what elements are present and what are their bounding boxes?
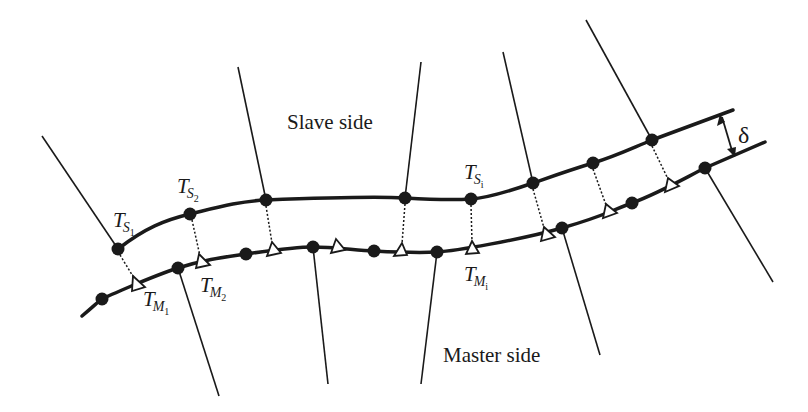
slave-side-label: Slave side [287, 110, 373, 134]
master-node [368, 245, 381, 258]
label-tm2: TM2 [200, 273, 226, 303]
slave-node [260, 194, 273, 207]
master-node [431, 246, 444, 259]
slave-node [646, 134, 659, 147]
master-node [699, 162, 712, 175]
slave-node [184, 208, 197, 221]
label-ts2: TS2 [177, 174, 199, 204]
master-node [307, 241, 320, 254]
contact-surface-diagram: δ Slave side Master side T [0, 0, 808, 412]
label-tmi: TMi [464, 262, 488, 292]
slave-node [465, 193, 478, 206]
slave-node [527, 177, 540, 190]
slave-surface-curve [118, 110, 733, 249]
master-node [626, 197, 639, 210]
master-side-label: Master side [443, 343, 540, 367]
label-ts1: TS1 [113, 208, 135, 238]
projection-triangle [331, 239, 345, 253]
label-tsi: TSi [464, 160, 484, 190]
label-tm1: TM1 [143, 287, 169, 317]
slave-node [587, 157, 600, 170]
projection-triangle [665, 178, 679, 192]
slave-node [399, 192, 412, 205]
master-node [96, 293, 109, 306]
projection-triangle [394, 243, 407, 256]
delta-label: δ [738, 122, 749, 148]
master-node [240, 248, 253, 261]
projection-triangle [603, 204, 617, 218]
slave-node [112, 243, 125, 256]
gap-double-arrow [717, 114, 736, 157]
slave-normal-lines [42, 20, 652, 249]
master-node [556, 222, 569, 235]
master-node [172, 262, 185, 275]
